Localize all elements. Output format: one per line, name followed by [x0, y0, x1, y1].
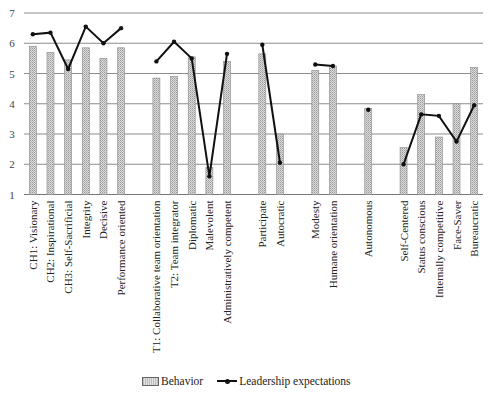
behavior-bar [65, 60, 72, 195]
expectations-marker [454, 139, 458, 143]
category-label: Autonomous [362, 201, 374, 258]
legend-label-behavior: Behavior [161, 375, 203, 387]
behavior-bar [153, 78, 160, 194]
expectations-marker [101, 41, 105, 45]
expectations-marker [313, 62, 317, 66]
expectations-line-segment [315, 64, 333, 66]
y-tick-label: 2 [9, 158, 15, 170]
category-label: Integrity [80, 200, 92, 238]
behavior-bar [118, 48, 125, 195]
expectations-marker [66, 67, 70, 71]
expectations-marker [190, 56, 194, 60]
expectations-marker [278, 161, 282, 165]
expectations-marker [154, 59, 158, 63]
expectations-line-segment [33, 27, 121, 69]
y-tick-label: 5 [9, 68, 15, 80]
expectations-marker [119, 26, 123, 30]
category-label: CH3: Self-Sacrificial [62, 201, 74, 294]
category-label: Diplomatic [186, 200, 198, 250]
line-marker-icon [217, 377, 237, 385]
behavior-bar [453, 104, 460, 195]
category-label: Humane orientation [327, 200, 339, 288]
behavior-bar [418, 95, 425, 195]
y-axis-ticks: 1234567 [9, 7, 15, 201]
behavior-bar [312, 70, 319, 194]
category-label: Performance oriented [115, 200, 127, 295]
bar-swatch-icon [142, 377, 159, 386]
x-axis-category-labels: CH1: VisionaryCH2: InspirationalCH3: Sel… [27, 200, 480, 353]
gridlines [24, 13, 483, 195]
expectations-marker [472, 103, 476, 107]
expectations-marker [31, 32, 35, 36]
legend-label-expectations: Leadership expectations [239, 375, 350, 387]
behavior-bar [471, 67, 478, 194]
expectations-marker [48, 30, 52, 34]
y-tick-label: 7 [9, 7, 15, 19]
behavior-bar [365, 108, 372, 194]
category-label: Malevolent [203, 201, 215, 251]
behavior-bar [329, 66, 336, 195]
category-label: T1: Collaborative team orientation [150, 200, 162, 353]
expectations-marker [331, 64, 335, 68]
category-label: Participate [256, 200, 268, 247]
behavior-bar [224, 61, 231, 194]
category-label: Status conscious [415, 201, 427, 274]
expectations-marker [172, 40, 176, 44]
behavior-bar [29, 46, 36, 194]
category-label: Face-Saver [451, 200, 463, 250]
expectations-marker [84, 24, 88, 28]
category-label: Administratively competent [221, 201, 233, 324]
y-tick-label: 6 [9, 37, 15, 49]
behavior-bar [47, 52, 54, 194]
expectations-marker [401, 162, 405, 166]
behavior-bar [82, 48, 89, 195]
behavior-bar [259, 54, 266, 195]
category-label: T2: Team integrator [168, 200, 180, 288]
behavior-bars [29, 46, 477, 194]
y-tick-label: 1 [9, 189, 15, 201]
y-tick-label: 4 [9, 98, 15, 110]
legend-item-expectations: Leadership expectations [217, 375, 350, 387]
expectations-marker [437, 114, 441, 118]
category-label: CH2: Inspirational [44, 201, 56, 283]
category-label: Decisive [97, 200, 109, 239]
category-label: Modesty [309, 200, 321, 239]
behavior-bar [171, 77, 178, 195]
category-label: Self-Centered [398, 200, 410, 262]
legend: Behavior Leadership expectations [142, 375, 365, 387]
expectations-marker [260, 43, 264, 47]
behavior-bar [435, 137, 442, 194]
leadership-expectations-line [31, 24, 477, 178]
category-label: CH1: Visionary [27, 200, 39, 270]
expectations-marker [366, 108, 370, 112]
category-label: Autocratic [274, 200, 286, 247]
expectations-marker [225, 52, 229, 56]
legend-item-behavior: Behavior [142, 375, 203, 387]
category-label: Bureaucratic [468, 200, 480, 256]
chart-plot-area: 1234567 CH1: VisionaryCH2: Inspirational… [0, 0, 489, 372]
behavior-bar [100, 58, 107, 194]
expectations-marker [207, 174, 211, 178]
category-label: Internally competitive [433, 200, 445, 298]
expectations-marker [419, 112, 423, 116]
y-tick-label: 3 [9, 128, 15, 140]
